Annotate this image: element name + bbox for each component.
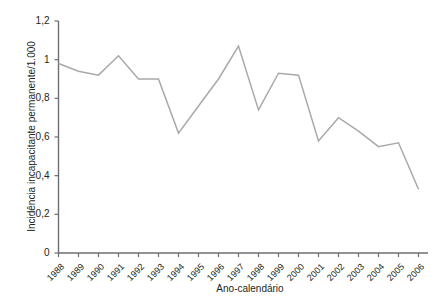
y-axis-title: Incidência incapacitante permanente/1.00…: [26, 32, 37, 242]
y-tick-label: 1,2: [0, 16, 50, 26]
chart-container: 00,20,40,60,811,2 1988198919901991199219…: [0, 0, 442, 303]
x-axis-title: Ano-calendário: [150, 283, 350, 294]
chart-plot-area: [0, 0, 442, 303]
chart-axes: [59, 21, 429, 253]
data-series-line: [59, 46, 419, 189]
y-tick-label: 0: [0, 248, 50, 258]
